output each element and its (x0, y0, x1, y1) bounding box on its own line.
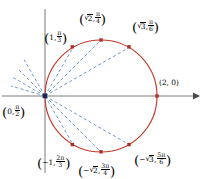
paren-close: ) (101, 11, 106, 27)
radical-sign: √ (137, 22, 142, 29)
x-axis-arrowhead (193, 93, 200, 100)
theta-denominator: 6 (157, 159, 166, 165)
origin-point (43, 94, 48, 99)
point-sqrt3-pi-6 (127, 45, 130, 48)
paren-close: ) (65, 155, 70, 171)
radical-sign: √ (145, 155, 150, 162)
paren-close: ) (166, 152, 171, 168)
paren-close: ) (154, 19, 159, 35)
theta-fraction: 3π4 (101, 163, 110, 177)
polar-circle-figure: (1,π3) (√2,π4) (√3,π6) (2, 0) (0,π2) (−1… (0, 0, 201, 179)
ann-2-0: (2, 0) (159, 79, 179, 86)
sqrt-3: √3 (145, 155, 154, 164)
ann-sqrt2-pi-4: (√2,π4) (79, 11, 106, 26)
ray-neg-5pi-6 (45, 96, 129, 145)
point-negsqrt3-5pi-6 (127, 143, 130, 146)
radical-sign: √ (84, 14, 89, 21)
theta-denominator: 4 (101, 170, 110, 176)
point-negsqrt2-3pi-4 (99, 150, 102, 153)
r-value: −1 (42, 158, 53, 167)
radical-sign: √ (89, 166, 94, 173)
point-1-pi-3 (71, 45, 74, 48)
theta-denominator: 3 (56, 162, 65, 168)
paren-close: ) (20, 104, 25, 120)
ann-negsqrt2-3pi-4: (−√2,3π4) (78, 163, 115, 178)
point-sqrt2-pi-4 (99, 38, 102, 41)
sqrt-2: √2 (89, 166, 98, 175)
theta-fraction: 2π3 (56, 155, 65, 169)
ann-1-pi-3: (1,π3) (44, 30, 67, 45)
ann-sqrt3-pi-6: (√3,π6) (132, 19, 159, 34)
paren-close: ) (62, 30, 67, 46)
sqrt-2: √2 (84, 14, 93, 23)
paren-close: ) (110, 163, 115, 179)
point-2-0 (155, 94, 158, 97)
ray-pi-6 (45, 48, 129, 97)
sqrt-3: √3 (137, 22, 146, 31)
ann-negsqrt3-5pi-6: (−√3,5π6) (134, 152, 171, 167)
ann-neg1-2pi-3: (−1,2π3) (37, 155, 70, 170)
ann-0-pi-2: (0,π2) (2, 104, 25, 119)
point-neg1-2pi-3 (71, 143, 74, 146)
axes-group (2, 9, 200, 173)
theta-fraction: 5π6 (157, 152, 166, 166)
